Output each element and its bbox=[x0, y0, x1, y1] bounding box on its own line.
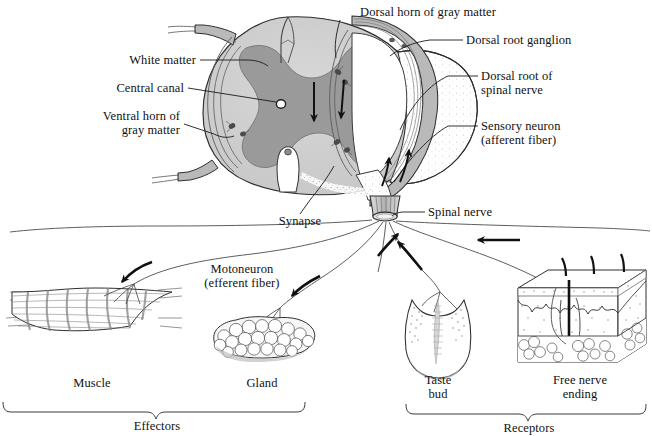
label-dorsal-horn: Dorsal horn of gray matter bbox=[343, 5, 513, 19]
spinal-nerve-trunk bbox=[370, 196, 400, 221]
label-dorsal-root-ganglion: Dorsal root ganglion bbox=[466, 33, 571, 47]
left-ventral-root-stub bbox=[178, 160, 218, 181]
arrow-to-muscle bbox=[122, 262, 152, 282]
taste-bud-organ bbox=[405, 292, 471, 380]
reflex-arc-figure: Dorsal horn of gray matter Dorsal root g… bbox=[0, 0, 652, 436]
label-taste-bud-line1: Taste bbox=[400, 373, 476, 388]
muscle-organ bbox=[6, 284, 182, 331]
receptors-bracket bbox=[406, 404, 646, 421]
label-dorsal-root-line1: Dorsal root of bbox=[481, 69, 553, 84]
label-muscle: Muscle bbox=[42, 376, 142, 390]
arrow-efferent-up-center bbox=[378, 234, 398, 256]
label-central-canal: Central canal bbox=[88, 81, 184, 95]
label-ventral-horn-line1: Ventral horn of bbox=[76, 109, 180, 124]
label-sensory-neuron-line1: Sensory neuron bbox=[481, 119, 561, 134]
left-dorsal-root-stub bbox=[195, 25, 236, 45]
label-effectors: Effectors bbox=[112, 419, 202, 433]
label-motoneuron-line2: (efferent fiber) bbox=[178, 276, 306, 291]
label-free-nerve-line1: Free nerve bbox=[528, 373, 632, 388]
label-dorsal-root-line2: spinal nerve bbox=[481, 83, 543, 98]
central-canal-marker bbox=[276, 100, 285, 108]
label-motoneuron-line1: Motoneuron bbox=[178, 262, 306, 277]
gland-organ bbox=[214, 308, 315, 362]
label-taste-bud-line2: bud bbox=[400, 387, 476, 402]
label-receptors: Receptors bbox=[484, 421, 574, 435]
fiber-from-skin bbox=[393, 221, 556, 288]
skin-block-organ bbox=[518, 254, 646, 362]
label-white-matter: White matter bbox=[88, 53, 196, 67]
label-sensory-neuron-line2: (afferent fiber) bbox=[481, 133, 556, 148]
fiber-branch-right-long bbox=[396, 221, 650, 231]
label-ventral-horn-line2: gray matter bbox=[76, 123, 180, 138]
arrow-afferent-from-taste bbox=[398, 242, 422, 270]
ventral-median-fissure bbox=[277, 147, 299, 192]
muscle-belly bbox=[12, 288, 172, 331]
effectors-bracket bbox=[3, 402, 305, 419]
fiber-from-taste-bud bbox=[389, 222, 440, 292]
label-free-nerve-line2: ending bbox=[528, 387, 632, 402]
taste-bud-fibers bbox=[422, 292, 458, 312]
central-canal-opening bbox=[276, 100, 285, 108]
bracket-group bbox=[3, 402, 646, 421]
label-gland: Gland bbox=[212, 376, 312, 390]
label-spinal-nerve: Spinal nerve bbox=[428, 205, 492, 219]
spinal-cord-group bbox=[152, 16, 477, 221]
label-synapse: Synapse bbox=[258, 214, 342, 228]
